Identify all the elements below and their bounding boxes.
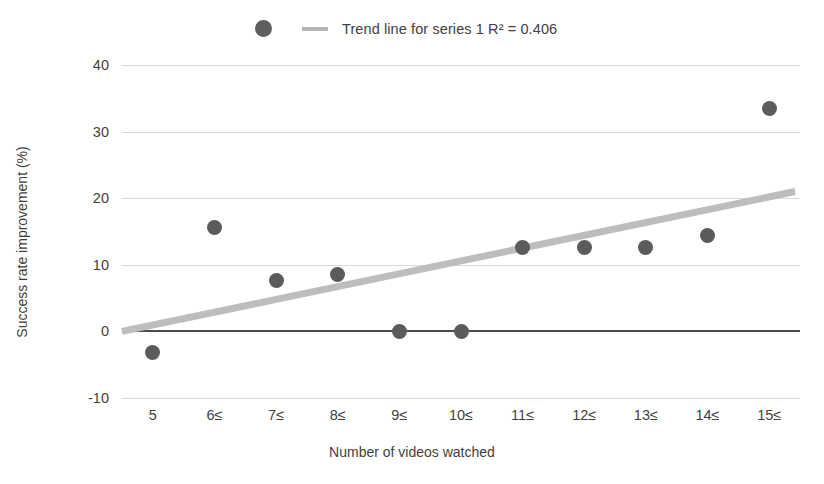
- x-axis-tick-label: 6≤: [206, 407, 222, 423]
- data-point: [515, 240, 530, 255]
- y-axis-tick-label: -10: [88, 390, 109, 406]
- x-axis-tick-label: 10≤: [449, 407, 473, 423]
- x-axis-tick-label: 7≤: [268, 407, 284, 423]
- y-axis-tick-label: 0: [101, 323, 109, 339]
- data-point: [577, 240, 592, 255]
- x-axis-tick-label: 14≤: [695, 407, 719, 423]
- data-point: [269, 273, 284, 288]
- x-axis-tick-label: 13≤: [634, 407, 658, 423]
- scatter-chart: Trend line for series 1 R² = 0.406 Succe…: [0, 0, 824, 484]
- data-point: [700, 228, 715, 243]
- x-axis-tick-label: 9≤: [391, 407, 407, 423]
- y-axis-tick-label: 10: [93, 257, 109, 273]
- legend-label: Trend line for series 1 R² = 0.406: [342, 21, 557, 37]
- y-axis-title: Success rate improvement (%): [14, 146, 30, 337]
- x-axis-tick-label: 15≤: [757, 407, 781, 423]
- trend-line-swatch-icon: [302, 27, 328, 31]
- gridline: [122, 398, 800, 399]
- data-point: [207, 220, 222, 235]
- x-axis-tick-label: 8≤: [330, 407, 346, 423]
- data-point: [145, 345, 160, 360]
- series-1-marker-icon: [255, 20, 272, 37]
- y-axis-tick-label: 20: [93, 190, 109, 206]
- x-axis-tick-label: 5: [149, 407, 157, 423]
- data-point: [392, 324, 407, 339]
- data-point: [454, 324, 469, 339]
- plot-area: 403020100-10 56≤7≤8≤9≤10≤11≤12≤13≤14≤15≤: [122, 65, 800, 398]
- y-axis-tick-label: 30: [93, 124, 109, 140]
- x-axis-title: Number of videos watched: [0, 444, 824, 460]
- chart-legend: Trend line for series 1 R² = 0.406: [255, 20, 557, 37]
- x-axis-tick-label: 12≤: [572, 407, 596, 423]
- x-axis-tick-label: 11≤: [511, 407, 534, 423]
- y-axis-tick-label: 40: [93, 57, 109, 73]
- trend-line: [122, 65, 800, 398]
